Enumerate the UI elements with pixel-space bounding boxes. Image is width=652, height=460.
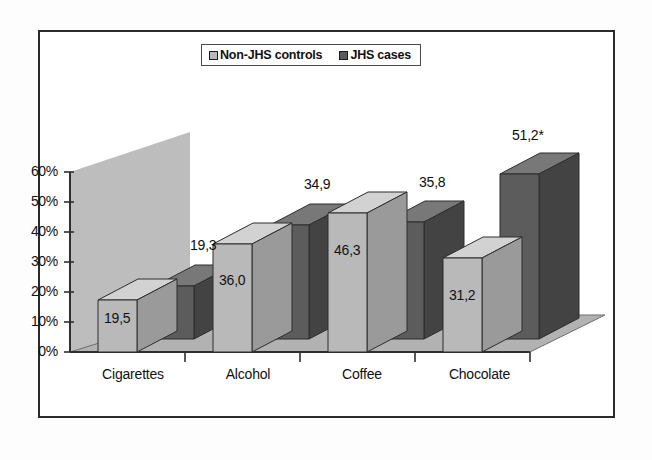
legend-item-jhs-cases[interactable]: JHS cases [339,48,411,62]
y-tick-label-50: 50% [12,193,58,209]
plot-svg [40,32,617,420]
legend-swatch-icon-controls [209,51,218,60]
y-tick-label-10: 10% [12,313,58,329]
value-label-chocolate-cases: 51,2* [512,127,544,143]
y-tick-label-0: 0% [12,343,58,359]
value-label-chocolate-controls: 31,2 [449,287,475,303]
legend-label-cases: JHS cases [350,48,411,62]
value-label-alcohol-cases: 34,9 [304,176,330,192]
y-tick-label-20: 20% [12,283,58,299]
bar-coffee-controls [328,192,407,352]
value-label-coffee-controls: 46,3 [334,242,360,258]
x-tick-label-cigarettes: Cigarettes [78,366,188,382]
legend-item-non-jhs-controls[interactable]: Non-JHS controls [209,48,322,62]
x-tick-label-coffee: Coffee [312,366,412,382]
x-tick-label-alcohol: Alcohol [198,366,298,382]
chart-legend: Non-JHS controls JHS cases [201,44,421,66]
chart-frame: 60% 50% 40% 30% 20% 10% 0% Cigarettes Al… [38,30,615,418]
value-label-coffee-cases: 35,8 [419,174,445,190]
value-label-cigarettes-controls: 19,5 [104,310,130,326]
chart-canvas: 60% 50% 40% 30% 20% 10% 0% Cigarettes Al… [0,0,652,460]
y-tick-label-60: 60% [12,163,58,179]
legend-label-controls: Non-JHS controls [220,48,322,62]
legend-swatch-icon-cases [339,51,348,60]
plot-area: 60% 50% 40% 30% 20% 10% 0% Cigarettes Al… [40,32,617,420]
y-tick-label-40: 40% [12,223,58,239]
y-tick-label-30: 30% [12,253,58,269]
value-label-cigarettes-cases: 19,3 [190,237,216,253]
value-label-alcohol-controls: 36,0 [219,272,245,288]
x-tick-label-chocolate: Chocolate [422,366,537,382]
x-tick-marks [185,352,530,362]
